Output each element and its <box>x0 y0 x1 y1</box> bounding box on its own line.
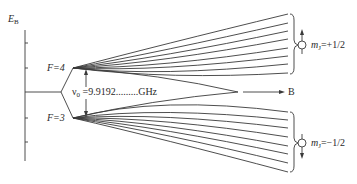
upper-brace <box>290 14 298 74</box>
spin-down-icon <box>298 139 306 147</box>
level-label-f4: F=4 <box>47 63 65 73</box>
spin-up-icon <box>298 41 306 49</box>
diagram-lines <box>0 0 357 184</box>
field-label: B <box>288 87 295 97</box>
lower-group-label: mJ=−1/2 <box>311 138 345 150</box>
breit-rabi-diagram: EB F=4 F=3 ν0 =9.9192.........GHz B mJ=+… <box>0 0 357 184</box>
upper-fan <box>73 14 288 92</box>
level-label-f3: F=3 <box>47 113 65 123</box>
lower-fan <box>73 92 288 172</box>
energy-axis-label: EB <box>8 14 19 26</box>
lower-brace <box>290 112 298 172</box>
upper-group-label: mJ=+1/2 <box>311 40 345 52</box>
splitting-frequency-label: ν0 =9.9192.........GHz <box>72 87 158 99</box>
